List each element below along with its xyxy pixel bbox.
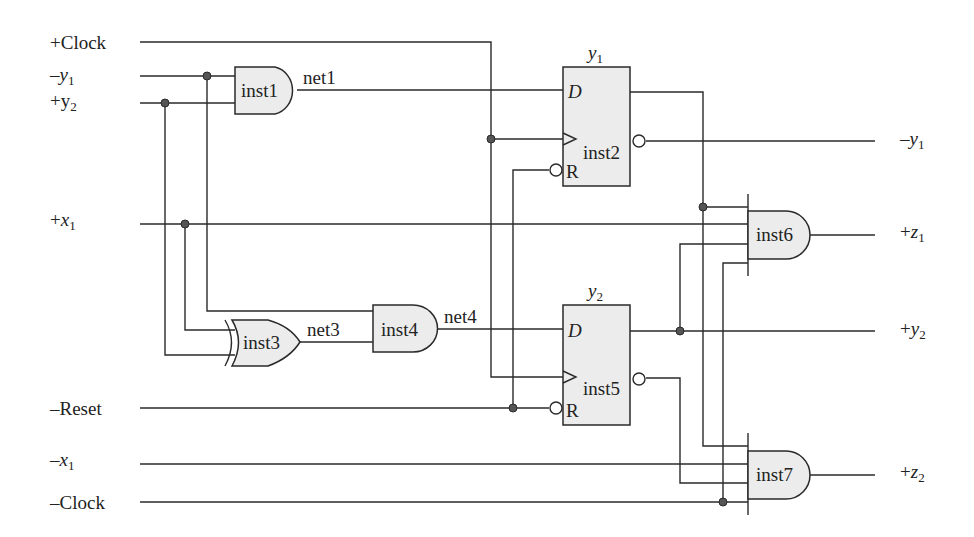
net-label-net3: net3 xyxy=(307,319,340,340)
wire-clock-pos xyxy=(140,42,563,377)
output-label-y1-neg: –y1 xyxy=(899,128,924,152)
flipflop-title: y1 xyxy=(586,42,603,66)
d-input-label: D xyxy=(567,81,582,102)
gate-label: inst7 xyxy=(756,464,793,485)
gate-label: inst3 xyxy=(243,332,280,353)
input-label-reset-neg: –Reset xyxy=(49,398,102,419)
wire-y2-to-inst3 xyxy=(165,103,235,355)
flipflop-title: y2 xyxy=(586,280,603,304)
junction-dot xyxy=(676,327,684,335)
wire-clock-neg-to-inst6 xyxy=(723,263,748,502)
flipflop-inst5: D inst5 R y2 xyxy=(550,280,645,425)
wire-inst2-q xyxy=(630,92,748,446)
input-label-clock-neg: –Clock xyxy=(49,492,105,513)
wire-q2-to-inst6 xyxy=(680,244,748,331)
gate-label: inst4 xyxy=(381,319,418,340)
output-label-z2-pos: +z2 xyxy=(900,461,925,485)
output-label-y2-pos: +y2 xyxy=(900,318,926,342)
reset-input-label: R xyxy=(566,400,579,421)
wire-reset-to-inst2 xyxy=(513,170,549,408)
wire-y1-neg-to-inst4 xyxy=(207,76,373,311)
d-input-label: D xyxy=(567,320,582,341)
input-label-x1-pos: +x1 xyxy=(50,209,76,233)
input-label-y1-neg: –y1 xyxy=(49,64,74,88)
junction-dot xyxy=(719,498,727,506)
logic-circuit-diagram: inst1 inst3 inst4 inst6 inst7 D inst2 R … xyxy=(0,0,974,537)
gate-inst1-and: inst1 xyxy=(235,67,293,114)
junction-dot xyxy=(509,404,517,412)
output-label-z1-pos: +z1 xyxy=(900,221,925,245)
gate-label: inst1 xyxy=(241,80,278,101)
flipflop-inst2: D inst2 R y1 xyxy=(550,42,645,186)
junction-dot xyxy=(161,99,169,107)
junction-dot xyxy=(203,72,211,80)
gate-label: inst6 xyxy=(756,224,793,245)
input-label-clock-pos: +Clock xyxy=(50,32,107,53)
wire-x1-to-inst3 xyxy=(185,224,235,330)
wire-inst5-qn-to-inst7 xyxy=(646,378,748,483)
flipflop-label: inst5 xyxy=(583,378,620,399)
reset-input-label: R xyxy=(566,161,579,182)
gate-inst4-and: inst4 xyxy=(373,305,438,352)
junction-dot xyxy=(699,203,707,211)
gate-inst7-and: inst7 xyxy=(748,433,810,515)
gate-inst3-xor: inst3 xyxy=(225,320,300,366)
net-label-net4: net4 xyxy=(444,306,477,327)
circuit-svg: inst1 inst3 inst4 inst6 inst7 D inst2 R … xyxy=(0,0,974,537)
flipflop-label: inst2 xyxy=(583,142,620,163)
input-label-x1-neg: –x1 xyxy=(49,449,74,473)
gate-inst6-and: inst6 xyxy=(748,194,810,276)
junction-dot xyxy=(181,220,189,228)
input-label-y2-pos: +y2 xyxy=(50,90,77,114)
net-label-net1: net1 xyxy=(303,67,336,88)
junction-dot xyxy=(487,135,495,143)
